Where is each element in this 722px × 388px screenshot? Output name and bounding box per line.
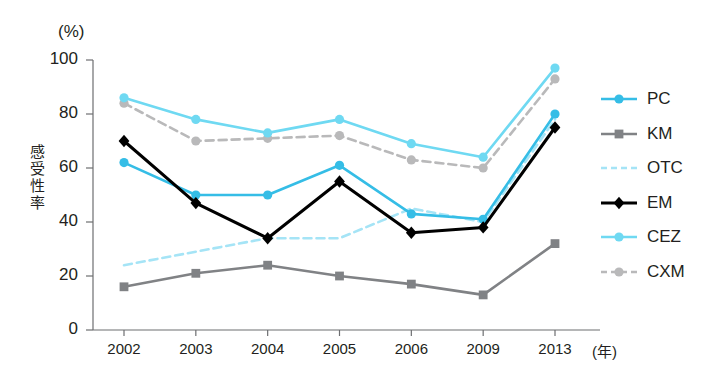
data-point xyxy=(551,239,560,248)
series-line xyxy=(124,68,555,157)
legend-item-cez[interactable]: CEZ xyxy=(600,220,718,255)
data-point xyxy=(550,109,559,118)
data-point xyxy=(550,74,559,83)
data-point xyxy=(479,153,488,162)
legend-swatch-cez-icon xyxy=(600,230,638,244)
legend-swatch-km-icon xyxy=(600,127,638,141)
legend-item-cxm[interactable]: CXM xyxy=(600,255,718,290)
legend-label: KM xyxy=(647,124,673,144)
data-point xyxy=(550,64,559,73)
legend-item-pc[interactable]: PC xyxy=(600,82,718,117)
data-point xyxy=(407,209,416,218)
axis-lines xyxy=(93,60,600,330)
data-point xyxy=(335,115,344,124)
legend-swatch-cxm-icon xyxy=(600,265,638,279)
line-chart: (%) 感 受 性 率 (年) 020406080100 20022003200… xyxy=(0,0,722,388)
legend-label: OTC xyxy=(647,158,683,178)
data-point xyxy=(479,163,488,172)
data-point xyxy=(120,282,129,291)
chart-legend: PCKMOTCEMCEZCXM xyxy=(600,82,718,289)
series-km xyxy=(120,239,560,299)
data-point xyxy=(119,158,128,167)
series-cez xyxy=(119,64,559,162)
legend-label: CEZ xyxy=(647,227,681,247)
data-point xyxy=(263,190,272,199)
data-point xyxy=(263,261,272,270)
data-point xyxy=(191,269,200,278)
data-point xyxy=(119,93,128,102)
legend-swatch-pc-icon xyxy=(600,92,638,106)
series-pc xyxy=(119,109,559,223)
legend-label: PC xyxy=(647,89,671,109)
data-point xyxy=(191,115,200,124)
legend-item-otc[interactable]: OTC xyxy=(600,151,718,186)
data-point xyxy=(263,128,272,137)
data-point xyxy=(407,155,416,164)
data-point xyxy=(335,131,344,140)
data-point xyxy=(479,291,488,300)
legend-item-em[interactable]: EM xyxy=(600,186,718,221)
data-point xyxy=(407,139,416,148)
legend-label: EM xyxy=(647,193,673,213)
data-point xyxy=(335,272,344,281)
legend-label: CXM xyxy=(647,262,685,282)
legend-item-km[interactable]: KM xyxy=(600,117,718,152)
series-line xyxy=(124,244,555,295)
data-point xyxy=(335,161,344,170)
legend-swatch-otc-icon xyxy=(600,161,638,175)
legend-swatch-em-icon xyxy=(600,196,638,210)
data-point xyxy=(407,280,416,289)
data-point xyxy=(191,136,200,145)
